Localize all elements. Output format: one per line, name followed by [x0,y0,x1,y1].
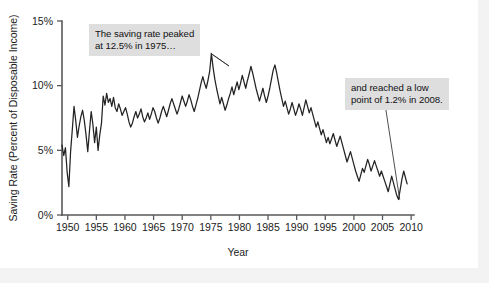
low-annotation-box: and reached a low point of 1.2% in 2008. [345,78,449,110]
saving-rate-line-chart: 0%5%10%15% 19501955196019651970197519801… [0,0,478,268]
chart-card: 0%5%10%15% 19501955196019651970197519801… [0,0,478,268]
x-tick-label: 2005 [371,221,395,233]
peak-annotation-box: The saving rate peaked at 12.5% in 1975… [89,24,200,56]
x-tick-label: 1985 [256,221,280,233]
figure-container: 0%5%10%15% 19501955196019651970197519801… [0,0,489,283]
x-tick-label: 1970 [171,221,195,233]
x-tick-label: 1960 [113,221,137,233]
x-tick-label: 1950 [56,221,80,233]
peak-annotation-leader-line [211,53,229,66]
x-tick-label: 2000 [342,221,366,233]
x-tick-label: 1975 [199,221,223,233]
x-axis-tick-labels: 1950195519601965197019751980198519901995… [56,221,423,233]
x-axis-title: Year [227,246,249,258]
x-tick-label: 2010 [399,221,423,233]
y-tick-label: 0% [38,209,53,221]
y-tick-label: 15% [32,15,53,27]
x-tick-label: 1990 [285,221,309,233]
y-axis-title: Saving Rate (Percent of Disposable Incom… [7,14,19,221]
low-annotation-leader-line [385,104,400,200]
x-tick-label: 1980 [228,221,252,233]
x-tick-label: 1955 [85,221,109,233]
y-tick-label: 10% [32,79,53,91]
x-tick-label: 1965 [142,221,166,233]
y-tick-label: 5% [38,144,53,156]
saving-rate-series-line [62,53,407,199]
y-axis-tick-labels: 0%5%10%15% [32,15,53,221]
x-tick-label: 1995 [314,221,338,233]
